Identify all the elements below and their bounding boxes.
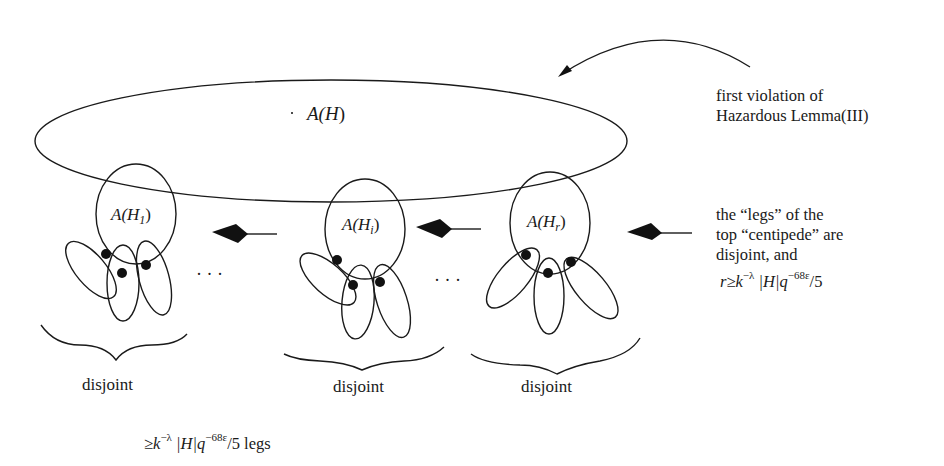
leg-dot xyxy=(566,257,576,267)
outer-set-ellipse xyxy=(35,80,627,202)
brace-label-h1: disjoint xyxy=(82,375,133,395)
stray-dot xyxy=(291,112,293,114)
brace-hi xyxy=(284,347,444,370)
leg-dot xyxy=(521,250,531,260)
leg-dot xyxy=(117,268,127,278)
annotation-legs-disjoint: the “legs” of the top “centipede” are di… xyxy=(716,205,843,292)
brace-label-hi: disjoint xyxy=(333,377,384,397)
outer-set-label: A(H) xyxy=(307,104,345,124)
arrowhead-hi xyxy=(416,219,452,238)
leg-dot xyxy=(543,268,553,278)
subset-label-hi: A(Hi) xyxy=(342,215,379,240)
formula-legs-count: ≥k−λ |H|q−68ε/5 legs xyxy=(144,427,271,454)
subset-label-h1: A(H1) xyxy=(111,205,151,230)
leg-dot xyxy=(348,280,358,290)
formula-r-bound: r≥k−λ |H|q−68ε/5 xyxy=(716,265,843,292)
arrowhead-curved xyxy=(558,65,572,77)
arrowhead-h1 xyxy=(212,224,248,243)
brace-h1 xyxy=(41,325,187,360)
leg-dot xyxy=(375,277,385,287)
centipede-group-h1 xyxy=(57,164,178,321)
centipede-group-hi xyxy=(292,179,418,342)
arrowhead-hr xyxy=(627,223,662,240)
brace-hr xyxy=(471,338,640,374)
curved-arrow xyxy=(562,40,750,74)
brace-label-hr: disjoint xyxy=(521,377,572,397)
annotation-first-violation: first violation of Hazardous Lemma(III) xyxy=(716,86,869,126)
leg-dot xyxy=(101,249,111,259)
centipede-group-hr xyxy=(478,172,627,334)
leg-dot xyxy=(141,260,151,270)
leg-dot xyxy=(332,255,342,265)
subset-label-hr: A(Hr) xyxy=(527,212,566,237)
ellipsis-2: · · · xyxy=(434,270,461,290)
ellipsis-1: · · · xyxy=(196,264,223,284)
